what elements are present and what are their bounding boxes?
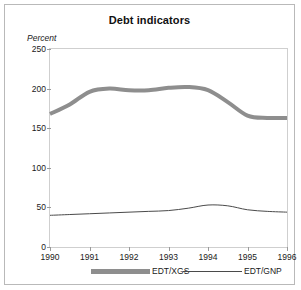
x-tick-label: 1992 [120, 252, 139, 262]
legend-item[interactable]: EDT/XGS [91, 266, 189, 276]
y-tick-mark [47, 49, 51, 50]
legend-item[interactable]: EDT/GNP [183, 266, 282, 276]
x-tick-label: 1996 [278, 252, 297, 262]
y-tick-label: 200 [32, 84, 46, 94]
series-layer [50, 49, 287, 247]
x-tick-label: 1990 [41, 252, 60, 262]
y-tick-label: 100 [32, 163, 46, 173]
x-tick-mark [208, 247, 209, 251]
x-tick-mark [50, 247, 51, 251]
y-tick-mark [47, 168, 51, 169]
y-tick-mark [47, 128, 51, 129]
y-tick-label: 250 [32, 44, 46, 54]
x-tick-label: 1994 [199, 252, 218, 262]
x-tick-mark [248, 247, 249, 251]
x-tick-mark [287, 247, 288, 251]
x-tick-label: 1991 [80, 252, 99, 262]
y-tick-label: 50 [37, 202, 46, 212]
legend-label: EDT/GNP [244, 266, 282, 276]
legend-swatch-icon [183, 271, 242, 272]
x-tick-mark [169, 247, 170, 251]
series-line [50, 205, 287, 215]
y-tick-label: 150 [32, 123, 46, 133]
x-tick-label: 1995 [238, 252, 257, 262]
legend-swatch-icon [91, 269, 150, 274]
y-tick-mark [47, 89, 51, 90]
y-axis-label: Percent [27, 33, 56, 43]
series-line [50, 87, 287, 118]
legend: EDT/XGSEDT/GNP [5, 266, 294, 282]
y-tick-mark [47, 207, 51, 208]
plot-area: 0501001502002501990199119921993199419951… [49, 48, 288, 248]
x-tick-mark [90, 247, 91, 251]
y-tick-label: 0 [41, 242, 46, 252]
chart-figure: Debt indicators Percent 0501001502002501… [4, 4, 295, 285]
x-tick-mark [129, 247, 130, 251]
page-title: Debt indicators [5, 14, 294, 26]
x-tick-label: 1993 [159, 252, 178, 262]
